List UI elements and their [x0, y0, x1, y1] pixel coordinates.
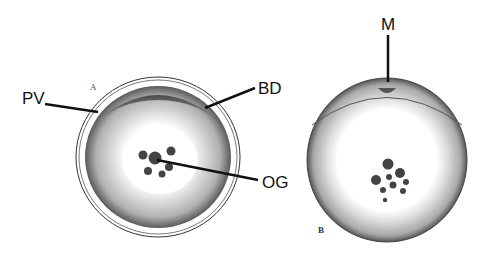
- label-m: M: [381, 16, 395, 33]
- egg-b: [307, 78, 467, 242]
- panel-letter-b: B: [318, 225, 324, 235]
- label-og: OG: [262, 174, 288, 191]
- egg-illustration: [0, 0, 494, 263]
- panel-letter-a: A: [90, 82, 97, 92]
- bd-leader-line: [205, 88, 255, 108]
- label-bd: BD: [258, 80, 282, 97]
- egg-a: [76, 77, 240, 237]
- pv-leader-line: [45, 104, 98, 112]
- label-pv: PV: [22, 90, 45, 107]
